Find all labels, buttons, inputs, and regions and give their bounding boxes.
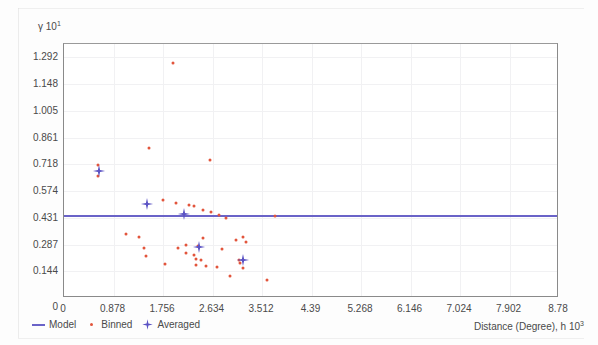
x-tick-label: 6.146 — [397, 303, 422, 314]
legend-item-model: Model — [32, 319, 76, 330]
x-axis-title-exponent: 3 — [580, 320, 584, 327]
x-tick-label: 0 — [60, 303, 66, 314]
chart-legend: Model Binned Averaged — [32, 319, 200, 330]
x-tick-label: 5.268 — [347, 303, 372, 314]
binned-dot-swatch-icon — [90, 323, 93, 326]
legend-label-binned: Binned — [101, 319, 132, 330]
legend-label-averaged: Averaged — [157, 319, 200, 330]
x-axis-title: Distance (Degree), h 103 — [474, 320, 584, 332]
x-tick-label: 1.756 — [149, 303, 174, 314]
variogram-chart-panel: γ 101 00.1440.2870.4310.5740.7180.8611.0… — [0, 0, 598, 345]
x-tick-label: 7.902 — [496, 303, 521, 314]
x-tick-label: 3.512 — [248, 303, 273, 314]
x-axis-tick-labels: 00.8781.7562.6343.5124.395.2686.1467.024… — [0, 0, 598, 345]
legend-label-model: Model — [49, 319, 76, 330]
averaged-cross-swatch-icon — [142, 319, 153, 330]
x-tick-label: 2.634 — [199, 303, 224, 314]
x-tick-label: 7.024 — [446, 303, 471, 314]
x-axis-title-text: Distance (Degree), h 10 — [474, 321, 580, 332]
legend-item-binned: Binned — [86, 319, 132, 330]
x-tick-label: 4.39 — [301, 303, 320, 314]
x-tick-label: 0.878 — [100, 303, 125, 314]
model-line-swatch-icon — [32, 324, 45, 326]
x-tick-label: 8.78 — [548, 303, 567, 314]
legend-item-averaged: Averaged — [142, 319, 200, 330]
